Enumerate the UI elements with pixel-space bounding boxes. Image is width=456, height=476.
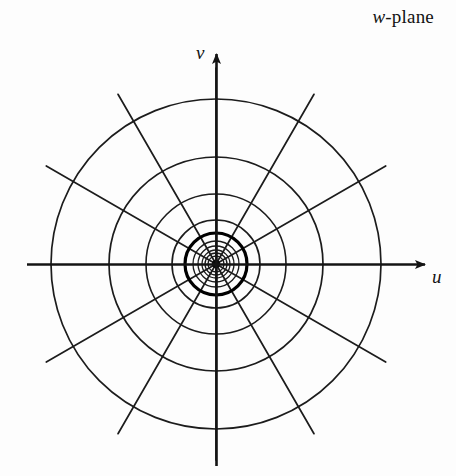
figure-canvas: w-plane v u — [0, 0, 456, 476]
u-axis-label: u — [432, 266, 442, 288]
plane-title-suffix: -plane — [385, 6, 434, 27]
v-axis-label: v — [196, 42, 204, 64]
plane-title: w-plane — [372, 6, 434, 28]
polar-grid-diagram — [0, 0, 456, 476]
plane-title-variable: w — [372, 6, 385, 27]
